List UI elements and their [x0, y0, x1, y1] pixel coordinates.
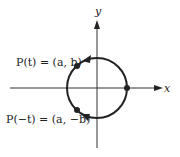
- label-p-t: P(t) = (a, b): [16, 56, 82, 69]
- x-axis-arrow-icon: [154, 85, 163, 91]
- point-start: [124, 85, 130, 91]
- x-axis-label: x: [164, 82, 171, 95]
- y-axis-arrow-icon: [94, 20, 100, 29]
- y-axis-label: y: [94, 5, 102, 18]
- unit-circle-diagram: x y P(t) = (a, b) P(−t) = (a, −b): [0, 0, 180, 157]
- label-p-neg-t: P(−t) = (a, −b): [6, 113, 90, 126]
